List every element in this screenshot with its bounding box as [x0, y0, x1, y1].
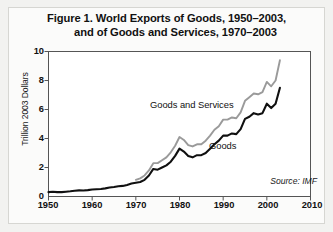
figure-container: Figure 1. World Exports of Goods, 1950–2… — [0, 0, 333, 232]
series-label-goods: Goods — [209, 140, 236, 151]
source-note: Source: IMF — [270, 176, 317, 186]
y-axis-ticks — [45, 52, 49, 168]
plot-area: Trillion 2003 Dollars 10 8 6 4 2 0 1950 … — [0, 0, 333, 232]
chart-canvas — [0, 0, 333, 232]
plot-frame — [49, 52, 311, 197]
series-label-goods-and-services: Goods and Services — [150, 99, 234, 110]
x-axis-ticks — [49, 197, 311, 201]
